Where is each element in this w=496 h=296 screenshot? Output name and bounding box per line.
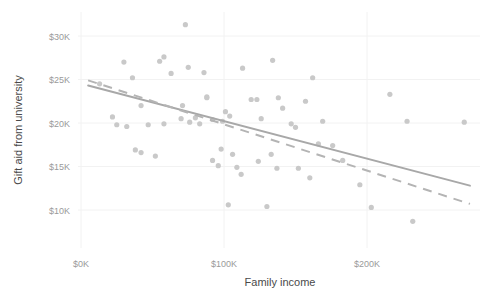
data-point	[239, 172, 244, 177]
data-point	[153, 153, 158, 158]
data-point	[227, 113, 232, 118]
data-point	[138, 103, 143, 108]
data-point	[179, 116, 184, 121]
data-point	[201, 70, 206, 75]
data-point	[230, 152, 235, 157]
y-tick-label: $25K	[49, 75, 70, 85]
data-point	[357, 182, 362, 187]
data-point	[210, 158, 215, 163]
data-point	[387, 92, 392, 97]
data-point	[183, 22, 188, 27]
data-point	[330, 143, 335, 148]
data-point	[180, 103, 185, 108]
data-point	[240, 66, 245, 71]
y-tick-label: $30K	[49, 32, 70, 42]
data-point	[226, 202, 231, 207]
data-point	[216, 163, 221, 168]
y-tick-label: $20K	[49, 119, 70, 129]
gridlines	[78, 12, 480, 248]
data-point	[310, 75, 315, 80]
data-point	[274, 166, 279, 171]
x-tick-label: $200K	[354, 259, 380, 269]
data-point	[320, 119, 325, 124]
data-point	[289, 121, 294, 126]
solid-fit-line	[88, 86, 470, 186]
x-axis-ticks: $0K$100K$200K	[73, 259, 380, 269]
y-tick-label: $10K	[49, 206, 70, 216]
data-point	[276, 95, 281, 100]
data-point	[124, 124, 129, 129]
data-point	[259, 116, 264, 121]
data-point	[462, 120, 467, 125]
data-point	[204, 95, 209, 100]
data-point	[293, 125, 298, 130]
data-point	[234, 165, 239, 170]
data-point	[186, 65, 191, 70]
y-axis-title: Gift aid from university	[12, 75, 24, 185]
data-point	[110, 114, 115, 119]
data-point	[340, 158, 345, 163]
data-point	[404, 119, 409, 124]
data-point	[219, 147, 224, 152]
data-point	[161, 54, 166, 59]
data-point	[197, 121, 202, 126]
data-point	[138, 150, 143, 155]
data-point	[264, 204, 269, 209]
x-tick-label: $0K	[73, 259, 89, 269]
plot-area: $10K$15K$20K$25K$30K $0K$100K$200K Gift …	[0, 0, 496, 296]
data-point	[303, 99, 308, 104]
data-point	[296, 166, 301, 171]
scatter-chart: $10K$15K$20K$25K$30K $0K$100K$200K Gift …	[0, 0, 496, 296]
data-point	[121, 60, 126, 65]
data-point	[270, 58, 275, 63]
data-point	[161, 121, 166, 126]
x-axis-title: Family income	[245, 276, 316, 288]
data-point	[187, 120, 192, 125]
data-point	[133, 147, 138, 152]
data-point	[223, 109, 228, 114]
data-point	[249, 97, 254, 102]
data-point	[269, 152, 274, 157]
data-point	[369, 205, 374, 210]
data-point	[168, 71, 173, 76]
data-point	[157, 59, 162, 64]
data-point	[254, 97, 259, 102]
y-tick-label: $15K	[49, 162, 70, 172]
data-point	[130, 75, 135, 80]
data-point	[280, 106, 285, 111]
y-axis-ticks: $10K$15K$20K$25K$30K	[49, 32, 70, 216]
data-point	[114, 122, 119, 127]
data-point	[256, 159, 261, 164]
data-point	[97, 81, 102, 86]
data-point	[146, 122, 151, 127]
data-point	[307, 175, 312, 180]
data-point	[410, 219, 415, 224]
x-tick-label: $100K	[211, 259, 237, 269]
